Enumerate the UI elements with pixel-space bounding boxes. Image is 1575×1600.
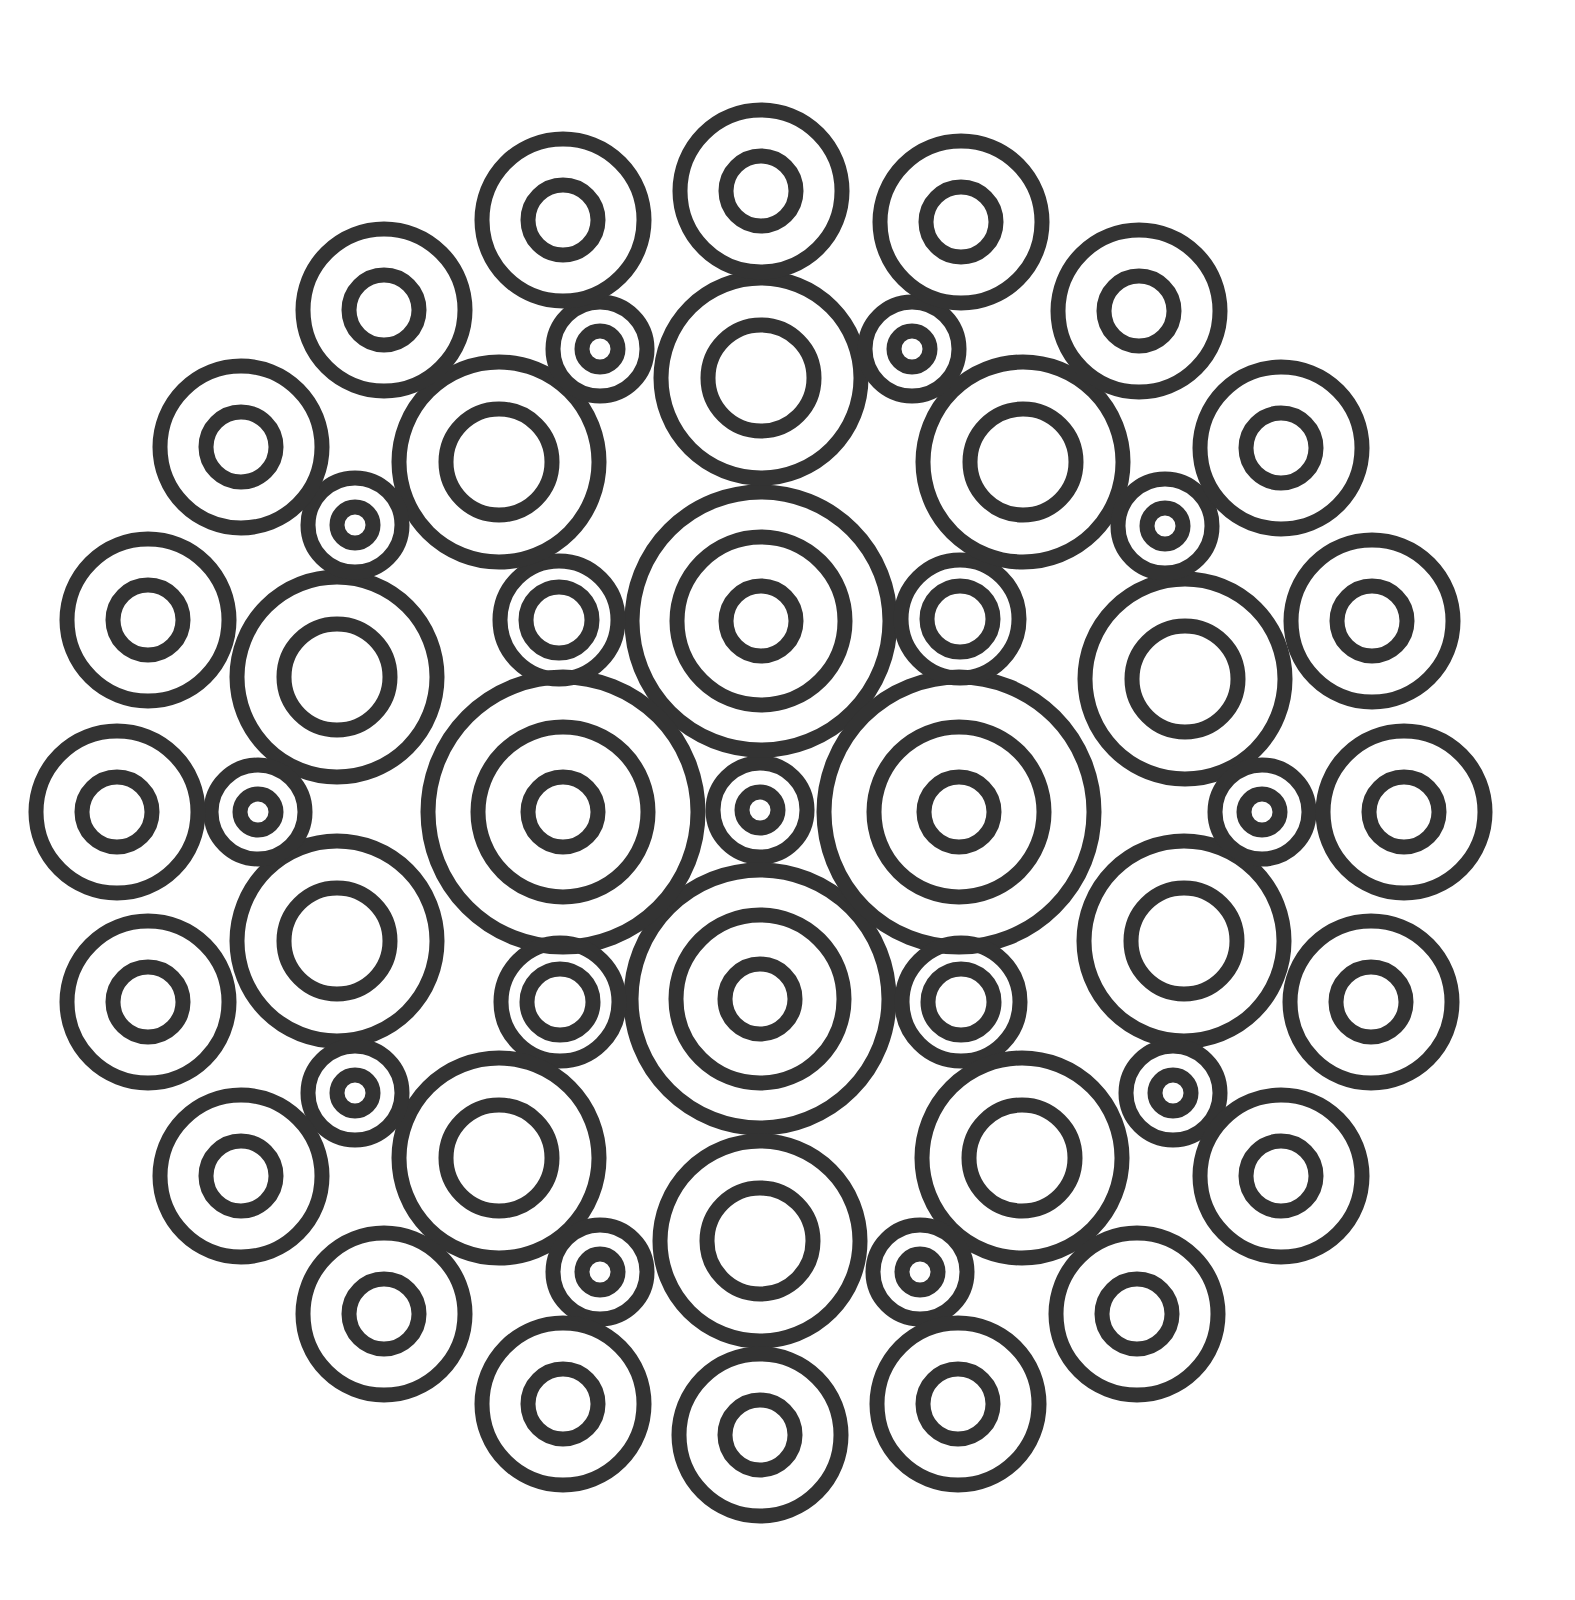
mandala-artwork	[0, 0, 1575, 1600]
